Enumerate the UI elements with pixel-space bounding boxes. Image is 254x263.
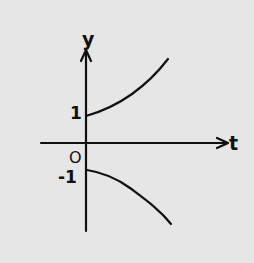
y-axis-label: y: [82, 28, 95, 50]
x-axis-label: t: [229, 132, 238, 154]
lower-curve: [87, 170, 171, 224]
origin-label: O: [69, 148, 82, 167]
graph-svg: y t O 1 -1: [0, 0, 254, 263]
tick-label-minus-1: -1: [58, 167, 77, 187]
tick-label-1: 1: [70, 103, 82, 123]
x-axis: [41, 138, 228, 148]
y-axis: [81, 50, 91, 231]
upper-curve: [86, 59, 168, 116]
graph-canvas: y t O 1 -1: [0, 0, 254, 263]
